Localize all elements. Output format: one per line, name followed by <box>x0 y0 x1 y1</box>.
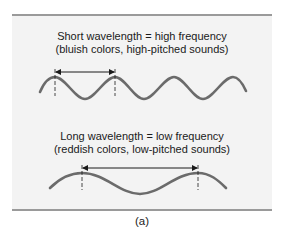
panel-label: (a) <box>0 215 284 227</box>
long-wave <box>50 173 226 194</box>
short-wave <box>40 77 246 99</box>
wave-diagram <box>0 0 284 247</box>
